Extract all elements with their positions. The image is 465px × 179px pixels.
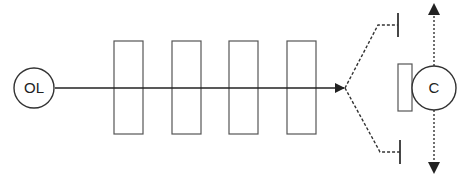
target-node: C bbox=[412, 66, 456, 110]
source-label: OL bbox=[24, 79, 44, 96]
optical-diagram: OL C bbox=[0, 0, 465, 179]
upper-branch bbox=[345, 13, 398, 88]
detector-plate bbox=[398, 64, 412, 111]
source-node: OL bbox=[14, 68, 54, 108]
target-label: C bbox=[429, 79, 440, 96]
lower-branch-dashed-line bbox=[345, 88, 400, 152]
lower-branch bbox=[345, 88, 400, 164]
upper-branch-dashed-line bbox=[345, 25, 398, 88]
